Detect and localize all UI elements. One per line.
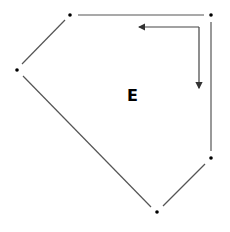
- orientation-arrow: [139, 27, 199, 88]
- edge-v3-v1: [22, 20, 65, 64]
- polygon-edges: [22, 15, 211, 207]
- face-label: E: [127, 86, 138, 105]
- vertex-v1: [68, 13, 72, 17]
- vertex-v3: [15, 68, 19, 72]
- polygon-diagram: E: [0, 0, 230, 232]
- edge-v4-v5: [163, 164, 205, 206]
- vertex-v5: [155, 210, 159, 214]
- vertex-v2: [209, 13, 213, 17]
- vertices: [15, 13, 213, 214]
- vertex-v4: [209, 156, 213, 160]
